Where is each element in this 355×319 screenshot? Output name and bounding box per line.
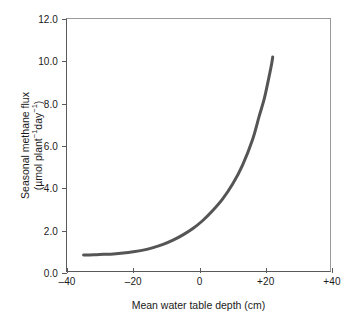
y-units-suffix: ) bbox=[31, 100, 43, 104]
y-axis-tick bbox=[62, 19, 67, 20]
x-axis-tick bbox=[266, 268, 267, 273]
y-axis-tick-label: 4.0 bbox=[44, 183, 58, 194]
data-series-line bbox=[84, 57, 273, 255]
x-axis-tick bbox=[67, 268, 68, 273]
y-units-mid: day bbox=[31, 112, 43, 129]
x-axis-tick bbox=[200, 268, 201, 273]
x-axis-tick-label: 0 bbox=[197, 276, 203, 287]
x-axis-title: Mean water table depth (cm) bbox=[66, 299, 331, 311]
x-axis-tick-label: +20 bbox=[257, 276, 274, 287]
chart-figure: Seasonal methane flux (µmol plant−1day−1… bbox=[0, 0, 355, 319]
y-axis-title-line2: (µmol plant−1day−1) bbox=[31, 92, 44, 199]
y-axis-tick bbox=[62, 146, 67, 147]
x-axis-tick bbox=[133, 268, 134, 273]
x-axis-tick bbox=[332, 268, 333, 273]
y-units-prefix: (µmol plant bbox=[31, 138, 43, 190]
y-axis-tick-label: 0.0 bbox=[44, 268, 58, 279]
plot-area: 0.02.04.06.08.010.012.0–40–200+20+40 bbox=[66, 18, 331, 272]
y-axis-tick bbox=[62, 231, 67, 232]
y-axis-tick-label: 6.0 bbox=[44, 141, 58, 152]
x-axis-tick-label: +40 bbox=[323, 276, 340, 287]
y-axis-tick-label: 10.0 bbox=[38, 56, 58, 67]
data-curve-canvas bbox=[67, 19, 332, 273]
y-axis-tick-label: 12.0 bbox=[38, 14, 58, 25]
y-axis-tick bbox=[62, 61, 67, 62]
y-axis-tick-label: 2.0 bbox=[44, 225, 58, 236]
y-axis-tick-label: 8.0 bbox=[44, 98, 58, 109]
y-units-exponent-2: −1 bbox=[30, 104, 39, 113]
y-units-exponent-1: −1 bbox=[30, 129, 39, 138]
y-axis-tick bbox=[62, 188, 67, 189]
x-axis-tick-label: –20 bbox=[125, 276, 142, 287]
y-axis-title-text: Seasonal methane flux (µmol plant−1day−1… bbox=[19, 92, 44, 199]
y-axis-tick bbox=[62, 273, 67, 274]
x-axis-tick-label: –40 bbox=[59, 276, 76, 287]
y-axis-tick bbox=[62, 104, 67, 105]
